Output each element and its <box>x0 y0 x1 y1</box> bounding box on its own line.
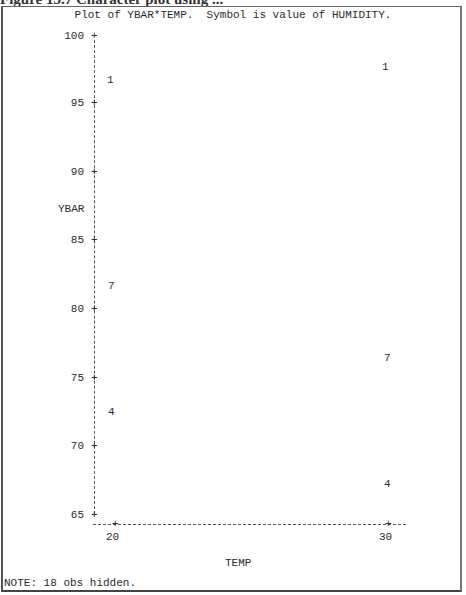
y-tick-mark: + <box>91 372 98 384</box>
y-tick-70: 70 <box>44 440 84 452</box>
y-tick-mark: + <box>91 509 98 521</box>
y-tick-mark: + <box>91 97 98 109</box>
y-axis-label: YBAR <box>58 203 84 215</box>
plot-frame <box>1 6 462 592</box>
y-tick-mark: + <box>91 234 98 246</box>
y-tick-mark: + <box>91 303 98 315</box>
y-tick-100: 100 <box>44 30 84 42</box>
data-point-humidity-4: 4 <box>108 406 115 418</box>
y-tick-80: 80 <box>44 303 84 315</box>
x-axis-line <box>93 524 406 525</box>
x-tick-mark: + <box>112 518 119 530</box>
note-text: NOTE: 18 obs hidden. <box>4 577 136 589</box>
data-point-humidity-1: 1 <box>107 74 114 86</box>
y-tick-mark: + <box>91 30 98 42</box>
x-tick-20: 20 <box>106 531 119 543</box>
y-tick-mark: + <box>91 166 98 178</box>
data-point-humidity-7: 7 <box>384 352 391 364</box>
x-tick-mark: + <box>385 518 392 530</box>
plot-title: Plot of YBAR*TEMP. Symbol is value of HU… <box>0 9 466 21</box>
y-tick-65: 65 <box>44 509 84 521</box>
data-point-humidity-4: 4 <box>384 478 391 490</box>
x-tick-30: 30 <box>379 531 392 543</box>
y-tick-mark: + <box>91 440 98 452</box>
y-tick-85: 85 <box>44 234 84 246</box>
y-tick-95: 95 <box>44 97 84 109</box>
y-tick-90: 90 <box>44 166 84 178</box>
x-axis-label: TEMP <box>225 557 251 569</box>
y-tick-75: 75 <box>44 372 84 384</box>
data-point-humidity-7: 7 <box>108 280 115 292</box>
data-point-humidity-1: 1 <box>382 61 389 73</box>
